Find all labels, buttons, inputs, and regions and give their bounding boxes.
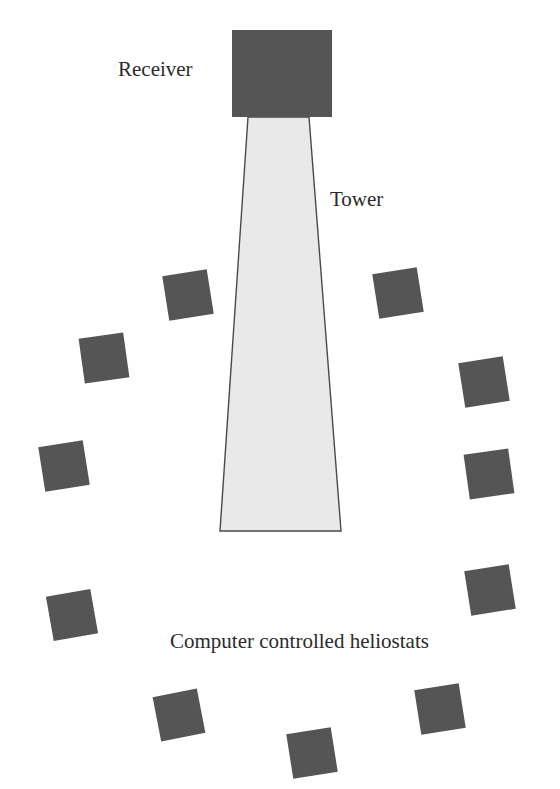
heliostat xyxy=(162,269,213,320)
heliostat xyxy=(153,689,206,742)
heliostat xyxy=(286,727,337,778)
tower-shape xyxy=(220,117,341,531)
heliostat xyxy=(464,564,515,615)
solar-power-tower-figure: Receiver Tower Computer controlled helio… xyxy=(0,0,560,789)
heliostat xyxy=(464,449,515,500)
tower-label: Tower xyxy=(330,189,383,210)
heliostat xyxy=(372,267,423,318)
receiver-shape xyxy=(232,30,332,117)
heliostats-label: Computer controlled heliostats xyxy=(170,631,429,652)
heliostat xyxy=(38,440,89,491)
diagram-canvas xyxy=(0,0,560,789)
heliostat xyxy=(79,333,130,384)
heliostat xyxy=(458,356,509,407)
heliostat xyxy=(46,589,98,641)
heliostat xyxy=(414,683,465,734)
receiver-label: Receiver xyxy=(118,59,193,80)
